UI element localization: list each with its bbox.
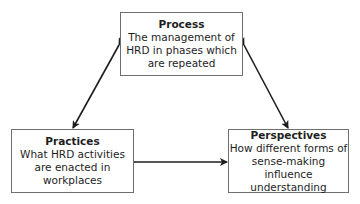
perspectives-node: Perspectives How different forms of sens… xyxy=(228,129,349,193)
process-node: Process The management of HRD in phases … xyxy=(120,12,243,76)
practices-desc-line-1: What HRD activities xyxy=(20,148,125,161)
arrow-process-practices xyxy=(73,45,119,128)
perspectives-title: Perspectives xyxy=(251,129,327,142)
practices-title: Practices xyxy=(45,135,99,148)
practices-desc-line-2: are enacted in xyxy=(35,161,111,174)
practices-desc-line-3: workplaces xyxy=(43,174,102,187)
process-desc-line-2: HRD in phases which xyxy=(126,44,237,57)
perspectives-desc-line-3: understanding xyxy=(250,181,326,194)
practices-node: Practices What HRD activities are enacte… xyxy=(11,129,134,193)
process-title: Process xyxy=(159,18,205,31)
process-desc-line-1: The management of xyxy=(128,31,235,44)
arrow-process-perspectives xyxy=(244,45,288,128)
perspectives-desc-line-1: How different forms of xyxy=(230,142,348,155)
process-desc-line-3: are repeated xyxy=(148,57,216,70)
perspectives-desc-line-2: sense-making influence xyxy=(229,155,348,181)
